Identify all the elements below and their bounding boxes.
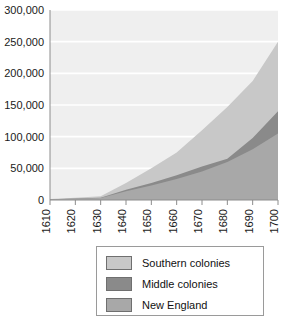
x-tick-label: 1690 <box>243 209 255 233</box>
y-axis-tick-labels: 050,000100,000150,000200,000250,000300,0… <box>4 4 44 206</box>
legend-label-middle-colonies: Middle colonies <box>142 277 218 291</box>
legend-swatch-southern-colonies <box>106 256 132 270</box>
y-tick-label: 100,000 <box>4 131 44 143</box>
chart-svg: 050,000100,000150,000200,000250,000300,0… <box>0 0 286 240</box>
plot-area-wrapper: 050,000100,000150,000200,000250,000300,0… <box>0 0 286 240</box>
x-tick-label: 1670 <box>192 209 204 233</box>
legend-swatch-middle-colonies <box>106 277 132 291</box>
y-tick-label: 0 <box>38 194 44 206</box>
population-area-chart: 050,000100,000150,000200,000250,000300,0… <box>0 0 286 322</box>
legend-item-new-england: New England <box>97 294 263 315</box>
x-tick-label: 1700 <box>268 209 280 233</box>
legend-item-southern-colonies: Southern colonies <box>97 252 263 273</box>
x-tick-label: 1640 <box>116 209 128 233</box>
y-tick-label: 150,000 <box>4 99 44 111</box>
x-axis-tick-labels: 1610162016301640165016601670168016901700 <box>40 209 280 233</box>
x-axis-ticks <box>50 200 278 205</box>
chart-legend: Southern colonies Middle colonies New En… <box>96 246 264 316</box>
y-tick-label: 250,000 <box>4 36 44 48</box>
legend-swatch-new-england <box>106 298 132 312</box>
x-tick-label: 1620 <box>65 209 77 233</box>
x-tick-label: 1680 <box>217 209 229 233</box>
y-tick-label: 200,000 <box>4 67 44 79</box>
y-tick-label: 300,000 <box>4 4 44 16</box>
y-tick-label: 50,000 <box>10 162 44 174</box>
x-tick-label: 1610 <box>40 209 52 233</box>
x-tick-label: 1650 <box>141 209 153 233</box>
x-tick-label: 1630 <box>91 209 103 233</box>
legend-label-new-england: New England <box>142 298 207 312</box>
x-tick-label: 1660 <box>167 209 179 233</box>
legend-label-southern-colonies: Southern colonies <box>142 256 230 270</box>
legend-item-middle-colonies: Middle colonies <box>97 273 263 294</box>
